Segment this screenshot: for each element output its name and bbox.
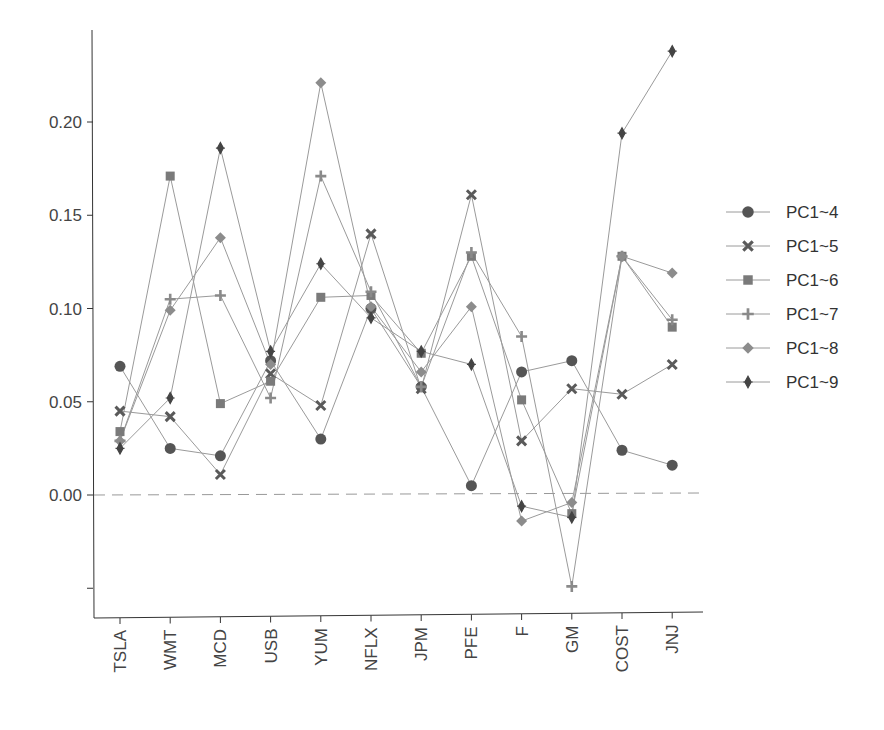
y-tick-label: 0.05 [49,393,82,412]
legend-marker-square-icon [743,275,752,284]
x-tick-label: YUM [312,628,331,666]
data-point-pc1-6 [216,399,225,408]
x-tick-label: GM [563,626,582,653]
data-point-pc1-4 [466,480,477,491]
x-tick-label: USB [262,629,281,664]
data-point-pc1-5 [316,401,325,410]
data-point-pc1-4 [667,460,678,471]
data-point-pc1-4 [617,445,628,456]
data-point-pc1-8 [315,77,326,88]
data-point-pc1-9 [668,46,677,57]
data-point-pc1-7 [165,294,176,305]
data-point-pc1-7 [265,393,276,404]
pca-loadings-line-chart: 0.000.050.100.150.20 TSLAWMTMCDUSBYUMNFL… [0,0,884,730]
data-point-pc1-9 [618,128,627,139]
x-tick-label: F [513,626,532,636]
data-point-pc1-8 [566,497,577,508]
data-point-pc1-5 [367,229,376,238]
data-point-pc1-8 [215,232,226,243]
x-tick-label: JNJ [663,625,682,654]
data-point-pc1-7 [566,581,577,592]
x-tick-label: PFE [462,627,481,660]
y-tick-label: 0.10 [49,300,82,319]
x-tick-label: MCD [211,629,230,668]
data-point-pc1-5 [467,190,476,199]
series-lines [120,51,672,586]
x-ticks: TSLAWMTMCDUSBYUMNFLXJPMPFEFGMCOSTJNJ [111,613,682,673]
legend-label: PC1~5 [786,237,838,256]
legend-label: PC1~8 [786,339,838,358]
legend-label: PC1~6 [786,271,838,290]
legend-label: PC1~9 [786,373,838,392]
data-point-pc1-5 [668,360,677,369]
data-point-pc1-7 [315,171,326,182]
data-point-pc1-4 [566,355,577,366]
data-point-pc1-4 [315,434,326,445]
legend-marker-thin-diamond-icon [743,376,752,388]
legend: PC1~4PC1~5PC1~6PC1~7PC1~8PC1~9 [726,203,838,392]
data-point-pc1-6 [116,427,125,436]
y-tick-label: 0.00 [49,486,82,505]
series-line-pc1-6 [120,176,672,514]
data-point-pc1-4 [115,361,126,372]
series-markers [115,46,678,592]
x-tick-label: JPM [412,627,431,661]
legend-label: PC1~7 [786,305,838,324]
data-point-pc1-5 [517,436,526,445]
x-tick-label: COST [613,625,632,672]
x-tick-label: NFLX [362,628,381,671]
y-tick-label: 0.20 [49,113,82,132]
data-point-pc1-6 [316,293,325,302]
legend-label: PC1~4 [786,203,838,222]
data-point-pc1-7 [215,290,226,301]
y-tick-label: 0.15 [49,206,82,225]
data-point-pc1-9 [216,143,225,154]
data-point-pc1-8 [667,268,678,279]
y-axis-line [92,30,94,618]
series-line-pc1-9 [120,51,672,517]
data-point-pc1-6 [517,395,526,404]
legend-marker-circle-icon [742,206,754,218]
data-point-pc1-6 [166,172,175,181]
zero-reference-line [94,493,703,495]
data-point-pc1-8 [516,516,527,527]
series-line-pc1-8 [120,83,672,521]
data-point-pc1-6 [266,377,275,386]
x-tick-label: TSLA [111,629,130,672]
data-point-pc1-5 [216,470,225,479]
data-point-pc1-9 [467,359,476,370]
data-point-pc1-8 [165,305,176,316]
data-point-pc1-4 [215,450,226,461]
data-point-pc1-8 [466,301,477,312]
data-point-pc1-4 [516,366,527,377]
data-point-pc1-7 [516,331,527,342]
x-axis-line [94,612,703,618]
x-tick-label: WMT [161,630,180,671]
legend-marker-diamond-icon [742,342,754,354]
legend-marker-plus-icon [742,308,754,320]
data-point-pc1-9 [517,501,526,512]
data-point-pc1-4 [165,443,176,454]
y-ticks: 0.000.050.100.150.20 [49,113,93,588]
